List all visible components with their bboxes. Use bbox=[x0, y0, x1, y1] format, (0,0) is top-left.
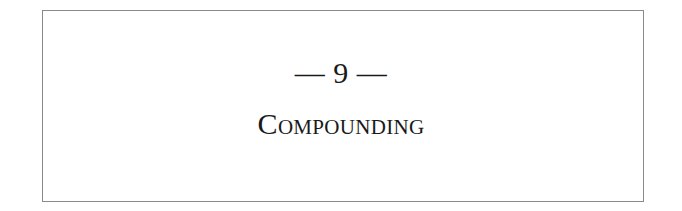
chapter-number: — 9 — bbox=[0, 55, 682, 91]
chapter-title: Compounding bbox=[0, 106, 682, 142]
